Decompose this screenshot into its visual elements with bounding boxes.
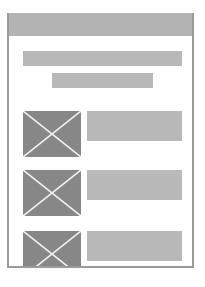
title-placeholder-bar <box>23 51 182 66</box>
list-item[interactable] <box>23 111 182 157</box>
list-item[interactable] <box>23 231 182 268</box>
header-bar <box>9 13 192 36</box>
text-placeholder <box>87 170 182 200</box>
text-placeholder <box>87 231 182 261</box>
image-placeholder-icon <box>23 231 81 268</box>
list-item[interactable] <box>23 170 182 216</box>
image-placeholder-icon <box>23 170 81 216</box>
wireframe-page <box>7 13 194 268</box>
image-placeholder-icon <box>23 111 81 157</box>
text-placeholder <box>87 111 182 141</box>
subtitle-placeholder-bar <box>52 73 153 88</box>
